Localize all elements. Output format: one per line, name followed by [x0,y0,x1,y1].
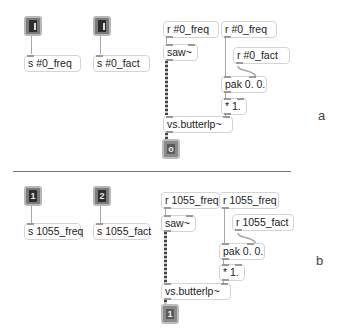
outlet-object[interactable]: o [162,139,180,159]
patch-cord [31,36,32,54]
object-text: * 1. [225,100,241,112]
receive-freq-object-2[interactable]: r #0_freq [221,21,277,38]
object-text: s 1055_freq [28,225,83,237]
object-text: saw~ [167,46,192,58]
object-text: pak 0. 0. [225,78,265,90]
object-text: r #0_fact [237,49,278,61]
outlet-object[interactable]: 1 [161,304,179,324]
object-text: s #0_fact [97,57,140,69]
inlet-2-object[interactable] [93,16,111,36]
object-text: r #0_freq [167,23,209,35]
inlet-number-icon: 1 [29,190,37,202]
object-text: pak 0. 0. [223,245,263,257]
inlet-1-object[interactable]: 1 [24,186,42,206]
patch-cord [225,38,226,76]
receive-freq-object[interactable]: r 1055_freq [161,192,220,209]
receive-fact-object[interactable]: r #0_fact [233,47,290,64]
object-text: vs.butterlp~ [165,285,220,297]
object-text: s #0_freq [28,57,72,69]
receive-freq-object[interactable]: r #0_freq [163,21,219,38]
patch-cord [100,36,101,54]
signal-cord [165,61,168,115]
object-text: r #0_freq [225,23,267,35]
object-text: * 1. [223,266,239,278]
object-text: s 1055_fact [97,225,151,237]
butterlp-filter-object[interactable]: vs.butterlp~ [161,283,231,300]
multiply-object[interactable]: * 1. [221,98,247,115]
receive-freq-object-2[interactable]: r 1055_freq [219,192,279,209]
inlet-arrow-icon [29,20,37,32]
send-fact-object[interactable]: s 1055_fact [93,223,150,240]
object-text: vs.butterlp~ [167,118,222,130]
panel-label: a [318,108,325,123]
signal-cord [164,232,167,284]
inlet-arrow-icon [98,20,106,32]
receive-fact-object[interactable]: r 1055_fact [232,214,294,231]
outlet-icon: o [167,144,175,154]
object-text: r 1055_freq [223,194,277,206]
object-text: r 1055_freq [165,194,219,206]
send-fact-object[interactable]: s #0_fact [93,55,150,72]
divider [13,171,291,172]
saw-object[interactable]: saw~ [161,215,196,232]
patch-cord [31,206,32,223]
inlet-2-object[interactable]: 2 [93,186,111,206]
multiply-object[interactable]: * 1. [219,264,245,281]
send-freq-object[interactable]: s 1055_freq [24,223,81,240]
butterlp-filter-object[interactable]: vs.butterlp~ [163,116,233,133]
inlet-1-object[interactable] [24,16,42,36]
panel-label: b [316,253,323,268]
patch-cord [224,209,225,243]
patch-cord [100,206,101,223]
send-freq-object[interactable]: s #0_freq [24,55,81,72]
pak-object[interactable]: pak 0. 0. [219,243,265,260]
outlet-number-icon: 1 [166,309,174,319]
object-text: r 1055_fact [236,216,289,228]
object-text: saw~ [165,217,190,229]
saw-object[interactable]: saw~ [163,44,198,61]
inlet-number-icon: 2 [98,190,106,202]
pak-object[interactable]: pak 0. 0. [221,76,267,93]
